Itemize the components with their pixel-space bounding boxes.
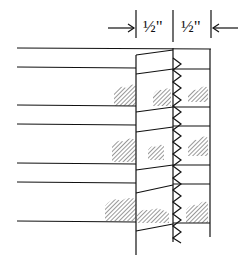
fabric-line — [17, 221, 136, 222]
panel-line — [136, 127, 173, 132]
panel-line — [136, 165, 173, 170]
panel-line — [136, 224, 173, 231]
fabric-line — [17, 163, 136, 164]
fabric-line — [17, 67, 136, 68]
dimension-label-left: ½" — [143, 18, 163, 35]
panel-line — [136, 69, 173, 74]
dimension-label-right: ½" — [181, 18, 201, 35]
fabric-shading — [105, 84, 208, 223]
panel-line — [136, 185, 173, 193]
panel-line — [136, 107, 173, 112]
zigzag-stitch-icon — [173, 58, 181, 243]
seam-diagram — [0, 0, 248, 266]
fabric-top-edge — [17, 48, 211, 49]
fabric-line — [17, 182, 136, 183]
panel-top — [136, 50, 173, 55]
fabric-line — [17, 124, 136, 125]
